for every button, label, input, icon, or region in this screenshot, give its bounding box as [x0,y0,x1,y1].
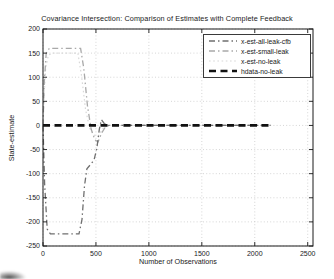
legend-item: x-est-all-leak-cfb [208,36,310,46]
legend-item: x-est-small-leak [208,46,310,56]
y-axis-label: State-estimate [7,115,16,161]
x-tick-label: 2500 [300,250,316,257]
legend-item: hdata-no-leak [208,66,310,76]
x-tick-label: 1000 [141,250,157,257]
x-tick-label: 1500 [194,250,210,257]
y-tick-label: 150 [28,50,40,57]
y-tick-label: -250 [26,242,40,249]
y-tick-label: 0 [36,122,40,129]
y-tick-label: -150 [26,194,40,201]
legend-line-sample [208,37,238,45]
figure: Covariance Intersection: Comparison of E… [0,0,334,279]
x-tick-label: 0 [41,250,45,257]
legend-label: x-est-all-leak-cfb [241,38,291,45]
y-tick-label: -200 [26,218,40,225]
x-tick-label: 2000 [247,250,263,257]
y-tick-label: 200 [28,25,40,32]
scan-artifact [0,271,26,279]
legend-line-sample [208,47,238,55]
legend-item: x-est-no-leak [208,56,310,66]
legend: x-est-all-leak-cfbx-est-small-leakx-est-… [203,34,311,78]
y-tick-label: 100 [28,74,40,81]
legend-line-sample [208,67,238,75]
x-axis-label: Number of Observations [43,257,313,266]
y-tick-label: -100 [26,170,40,177]
legend-label: x-est-small-leak [241,48,289,55]
series-x-est-all-leak-cfb [43,120,271,234]
y-tick-label: 50 [32,98,40,105]
legend-label: x-est-no-leak [241,58,280,65]
legend-line-sample [208,57,238,65]
y-tick-label: -50 [30,146,40,153]
x-tick-label: 500 [90,250,102,257]
legend-label: hdata-no-leak [241,68,283,75]
